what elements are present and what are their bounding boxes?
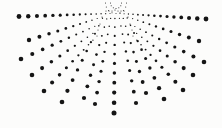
fan-dot [121, 3, 122, 4]
fan-dot [135, 60, 138, 63]
fan-dot [95, 91, 99, 95]
fan-dot [132, 18, 133, 19]
fan-dot [85, 21, 87, 23]
fan-dot [110, 18, 111, 19]
fan-dot [123, 10, 124, 11]
fan-dot [50, 81, 54, 85]
fan-dot [141, 36, 143, 38]
fan-dot [105, 13, 106, 14]
fan-dot [106, 11, 107, 12]
fan-dot [142, 14, 144, 16]
fan-dot [155, 59, 158, 62]
fan-dot [146, 40, 148, 42]
fan-dot [133, 32, 135, 34]
fan-dot [182, 50, 186, 54]
fan-dot [51, 44, 54, 47]
fan-dot [79, 13, 81, 15]
fan-dot [88, 28, 90, 30]
fan-dot [179, 16, 183, 20]
fan-dot [145, 31, 147, 33]
fan-dot [132, 90, 136, 94]
fan-dot [90, 41, 92, 43]
fan-dot [152, 45, 154, 47]
fan-dot [172, 15, 175, 18]
fan-dot [94, 33, 96, 35]
fan-dot [141, 80, 145, 84]
fan-dot [72, 13, 75, 16]
fan-dot [114, 18, 115, 19]
fan-dot [85, 84, 89, 88]
fan-dot [159, 49, 162, 52]
fan-dot [94, 26, 95, 27]
fan-dot [83, 49, 85, 51]
fan-dot [87, 36, 89, 38]
fan-dot [125, 7, 126, 8]
fan-dot [132, 51, 135, 54]
fan-dot [119, 18, 120, 19]
fan-dot [162, 97, 167, 102]
fan-dot [75, 34, 77, 36]
fan-dot [65, 27, 68, 30]
fan-dot [100, 24, 101, 25]
fan-dot [102, 17, 103, 18]
fan-dot [42, 89, 47, 94]
fan-dot [187, 16, 191, 20]
fan-dot [120, 12, 121, 13]
fan-dot [142, 21, 144, 23]
fan-dot [90, 13, 92, 15]
fan-dot [116, 8, 117, 9]
fan-dot [98, 25, 100, 27]
fan-dot [127, 17, 128, 18]
fan-dot [92, 63, 95, 66]
fan-dot [59, 14, 62, 17]
fan-dot [126, 59, 129, 62]
fan-dot [58, 73, 62, 77]
fan-dot [137, 40, 139, 42]
fan-dot [112, 111, 117, 116]
fan-dot [104, 26, 106, 28]
fan-dot [99, 70, 102, 73]
fan-dot [166, 54, 169, 57]
fan-dot [92, 40, 93, 41]
fan-dot [191, 55, 195, 59]
fan-dot [159, 15, 162, 18]
fan-dot [144, 91, 148, 95]
fan-dot [79, 23, 81, 25]
fan-dot [72, 25, 74, 27]
fan-dot [120, 25, 122, 27]
fan-dot [127, 33, 129, 35]
fan-dot [108, 25, 110, 27]
fan-dot [114, 9, 115, 10]
fan-dot [59, 40, 62, 43]
fan-dot [47, 32, 50, 35]
fan-dot [19, 57, 24, 62]
fan-dot [106, 7, 107, 8]
fan-dot [123, 41, 125, 43]
fan-dot [77, 54, 79, 56]
fan-dot [88, 44, 90, 46]
fan-dot [65, 66, 68, 69]
fan-dot [112, 12, 113, 13]
fan-dot [74, 45, 76, 47]
fan-dot [155, 25, 157, 27]
fan-dot [110, 13, 111, 14]
fan-dot [100, 13, 101, 14]
fan-dot [101, 60, 104, 63]
fan-dot [162, 28, 165, 31]
fan-dot [128, 13, 129, 14]
fan-dot [191, 73, 196, 78]
fan-dot [80, 40, 82, 42]
fan-dot [76, 68, 79, 71]
fan-dot [130, 79, 133, 82]
fan-dot [178, 33, 181, 36]
fan-dot [30, 73, 35, 78]
fan-dot [81, 59, 84, 62]
fan-dot [147, 14, 149, 16]
fan-dot [105, 3, 106, 4]
fan-dot [37, 35, 41, 39]
fan-dot [107, 33, 109, 35]
fan-dot [98, 30, 99, 31]
fan-dot [113, 44, 115, 46]
fan-dot [130, 24, 131, 25]
fan-dot [50, 60, 54, 64]
